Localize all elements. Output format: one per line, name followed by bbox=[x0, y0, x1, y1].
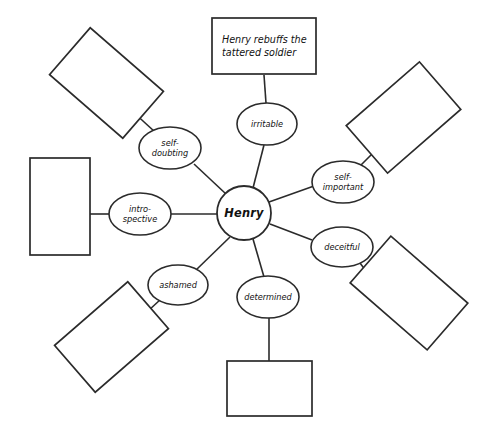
box-determined-outline[interactable] bbox=[227, 361, 312, 416]
center-node[interactable]: Henry bbox=[217, 186, 271, 240]
edge-center-irritable bbox=[253, 145, 264, 188]
node-deceitful-label: deceitful bbox=[324, 242, 360, 252]
box-ashamed[interactable] bbox=[55, 282, 169, 392]
box-introspective[interactable] bbox=[30, 158, 90, 255]
spider-map-svg: Henry rebuffs thetattered soldier irrita… bbox=[0, 0, 480, 435]
box-self-doubting-outline[interactable] bbox=[50, 28, 164, 138]
node-self-important[interactable]: self-important bbox=[312, 161, 374, 203]
edge-center-deceitful bbox=[270, 224, 312, 240]
center-layer: Henry bbox=[217, 186, 271, 240]
edge-center-self-important bbox=[269, 186, 314, 202]
node-irritable-label: irritable bbox=[251, 119, 283, 129]
node-self-doubting[interactable]: self-doubting bbox=[139, 127, 201, 169]
box-self-doubting[interactable] bbox=[50, 28, 164, 138]
node-determined[interactable]: determined bbox=[237, 276, 299, 318]
node-ashamed-label: ashamed bbox=[159, 280, 198, 290]
edge-center-ashamed bbox=[196, 237, 230, 270]
box-introspective-outline[interactable] bbox=[30, 158, 90, 255]
diagram-canvas: Henry rebuffs thetattered soldier irrita… bbox=[0, 0, 480, 435]
edge-center-determined bbox=[253, 239, 264, 277]
node-irritable[interactable]: irritable bbox=[237, 103, 297, 145]
box-ashamed-outline[interactable] bbox=[55, 282, 169, 392]
node-deceitful[interactable]: deceitful bbox=[311, 227, 373, 267]
box-self-important[interactable] bbox=[346, 62, 461, 173]
node-determined-label: determined bbox=[244, 292, 292, 302]
box-determined[interactable] bbox=[227, 361, 312, 416]
edge-center-self-doubting bbox=[194, 164, 226, 194]
node-ashamed[interactable]: ashamed bbox=[148, 265, 208, 305]
edge-irritable-box bbox=[264, 75, 266, 103]
box-irritable[interactable]: Henry rebuffs thetattered soldier bbox=[212, 18, 316, 74]
center-node-label: Henry bbox=[224, 206, 264, 220]
box-self-important-outline[interactable] bbox=[346, 62, 461, 173]
node-introspective[interactable]: intro-spective bbox=[109, 193, 171, 235]
